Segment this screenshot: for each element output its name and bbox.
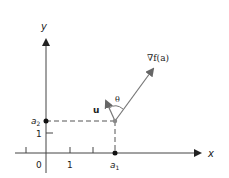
a1-label: a1 <box>110 160 120 171</box>
directional-derivative-diagram: y x 0 1 1 a1 a2 ∇f(a) u θ <box>0 0 229 178</box>
a2-label: a2 <box>31 116 41 127</box>
point-a2 <box>44 119 49 124</box>
base-point-a <box>113 119 117 123</box>
x-one-label: 1 <box>67 160 73 170</box>
theta-label: θ <box>115 95 120 104</box>
y-axis-label: y <box>40 21 48 32</box>
a1-label-sub: 1 <box>116 164 120 171</box>
y-one-label: 1 <box>36 129 42 139</box>
u-vector <box>106 101 115 121</box>
point-a1 <box>113 151 118 156</box>
origin-label: 0 <box>36 160 42 170</box>
gradient-vector <box>115 69 153 121</box>
a2-label-sub: 2 <box>37 120 41 127</box>
theta-arc <box>109 106 123 109</box>
u-label: u <box>93 105 99 115</box>
x-axis-label: x <box>207 148 214 159</box>
gradient-label: ∇f(a) <box>147 53 169 63</box>
